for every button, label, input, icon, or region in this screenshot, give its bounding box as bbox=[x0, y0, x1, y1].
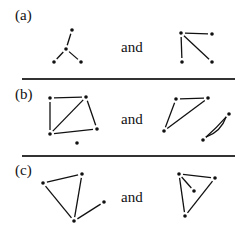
graph-canvas bbox=[0, 0, 247, 231]
graph-edge bbox=[184, 36, 209, 60]
graph-edge bbox=[47, 175, 78, 182]
graph-a-left bbox=[52, 28, 83, 64]
graph-edge bbox=[181, 37, 182, 58]
graph-node bbox=[227, 112, 231, 116]
graph-edge bbox=[57, 52, 64, 59]
graph-edge bbox=[77, 204, 100, 219]
graph-node bbox=[48, 96, 52, 100]
graph-node bbox=[177, 172, 181, 176]
graph-edge bbox=[180, 178, 185, 212]
graph-edge bbox=[180, 98, 204, 99]
graph-node bbox=[162, 129, 166, 133]
graph-edge bbox=[54, 97, 82, 98]
graph-b-left bbox=[48, 95, 99, 145]
graph-node bbox=[70, 28, 74, 32]
graph-a-right bbox=[179, 31, 214, 64]
graph-node bbox=[102, 200, 106, 204]
graph-edge bbox=[183, 174, 211, 177]
graph-node bbox=[210, 32, 214, 36]
graph-node bbox=[183, 214, 187, 218]
graph-node bbox=[48, 132, 52, 136]
graph-node bbox=[192, 189, 196, 193]
graph-edge bbox=[46, 186, 72, 218]
graph-c-left bbox=[41, 172, 106, 223]
graph-node bbox=[180, 60, 184, 64]
graph-node bbox=[79, 60, 83, 64]
graph-edge bbox=[53, 100, 83, 131]
graph-node bbox=[210, 60, 214, 64]
graph-edge bbox=[182, 177, 192, 188]
graph-node bbox=[213, 176, 217, 180]
graph-edge bbox=[54, 129, 93, 133]
graph-node bbox=[52, 60, 56, 64]
graph-edge bbox=[187, 181, 212, 213]
graph-node bbox=[72, 219, 76, 223]
graph-node bbox=[201, 138, 205, 142]
curved-edge bbox=[206, 117, 226, 137]
graph-edge bbox=[69, 52, 78, 60]
graph-edge bbox=[75, 178, 82, 217]
graph-edge bbox=[87, 101, 95, 125]
graph-node bbox=[41, 181, 45, 185]
graph-node bbox=[179, 31, 183, 35]
graph-c-right bbox=[177, 172, 217, 218]
graph-node bbox=[75, 141, 79, 145]
graph-node bbox=[84, 95, 88, 99]
graph-edge bbox=[67, 34, 71, 45]
graph-node bbox=[206, 96, 210, 100]
graph-node bbox=[95, 127, 99, 131]
graph-b-right bbox=[162, 96, 231, 142]
graph-edge bbox=[167, 100, 205, 128]
graph-node bbox=[64, 47, 68, 51]
graph-node bbox=[174, 97, 178, 101]
graph-edge bbox=[185, 33, 208, 34]
graph-node bbox=[80, 172, 84, 176]
